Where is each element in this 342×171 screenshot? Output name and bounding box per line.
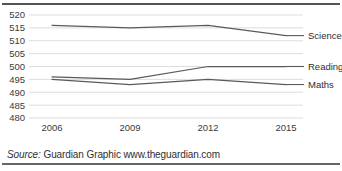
series-label-maths: Maths [308, 79, 334, 90]
y-tick-label: 505 [9, 48, 25, 59]
x-axis-tick-labels: 2006200920122015 [41, 122, 296, 133]
data-line-science [52, 25, 286, 35]
series-label-reading: Reading [308, 61, 342, 72]
y-tick-label: 485 [9, 100, 25, 111]
y-tick-label: 515 [9, 22, 25, 33]
y-tick-label: 520 [9, 9, 25, 20]
plot-area: 480485490495500505510515520 200620092012… [0, 8, 342, 138]
data-line-maths [52, 79, 286, 84]
data-series-group [52, 25, 304, 84]
y-tick-label: 500 [9, 61, 25, 72]
y-tick-label: 490 [9, 87, 25, 98]
x-tick-label: 2015 [275, 122, 296, 133]
source-text: Guardian Graphic www.theguardian.com [43, 149, 220, 160]
source-prefix: Source: [7, 149, 41, 160]
y-tick-label: 480 [9, 112, 25, 123]
chart-figure: 480485490495500505510515520 200620092012… [0, 0, 342, 171]
x-tick-label: 2006 [41, 122, 62, 133]
x-tick-label: 2009 [119, 122, 140, 133]
series-label-science: Science [308, 30, 342, 41]
series-label-group: ScienceReadingMaths [308, 30, 342, 90]
y-axis-tick-labels: 480485490495500505510515520 [9, 9, 25, 123]
line-chart: 480485490495500505510515520 200620092012… [0, 8, 342, 138]
top-divider [2, 3, 340, 5]
y-tick-label: 495 [9, 74, 25, 85]
data-line-reading [52, 67, 286, 80]
source-caption: Source: Guardian Graphic www.theguardian… [7, 149, 220, 160]
x-tick-label: 2012 [197, 122, 218, 133]
bottom-divider [2, 163, 340, 165]
y-tick-label: 510 [9, 35, 25, 46]
